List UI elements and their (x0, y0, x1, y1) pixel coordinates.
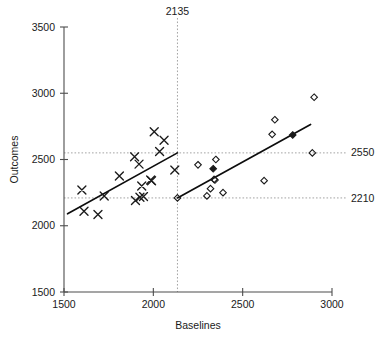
scatter-plot-figure: 15002000250030003500 1500200025003000 21… (0, 0, 385, 344)
data-point-cross (156, 148, 164, 156)
x-tick-label-1500: 1500 (52, 298, 76, 310)
reference-lines-group (64, 18, 346, 292)
axes-group (64, 27, 332, 292)
annotation-label-2135: 2135 (166, 5, 190, 17)
data-point-diamond (311, 94, 318, 101)
data-point-diamond (210, 165, 217, 172)
trend-lines-group (68, 124, 311, 213)
x-tick-label-2500: 2500 (231, 298, 255, 310)
x-tick-label-3000: 3000 (320, 298, 344, 310)
annotation-labels-group: 213525502210 (166, 5, 375, 204)
data-point-diamond (272, 116, 279, 123)
x-axis-ticks: 1500200025003000 (52, 288, 344, 310)
data-point-diamond (269, 131, 276, 138)
data-point-cross (94, 210, 102, 218)
data-point-diamond (220, 189, 227, 196)
y-axis-title: Outcomes (8, 136, 20, 184)
y-axis-ticks: 15002000250030003500 (32, 21, 68, 298)
data-point-diamond (195, 162, 202, 169)
data-point-cross (80, 207, 88, 215)
annotation-label-2210: 2210 (351, 192, 375, 204)
x-axis-title: Baselines (175, 319, 221, 331)
y-tick-label-2000: 2000 (32, 219, 56, 231)
x-tick-label-2000: 2000 (142, 298, 166, 310)
y-tick-label-3000: 3000 (32, 87, 56, 99)
annotation-label-2550: 2550 (351, 146, 375, 158)
data-point-cross (78, 186, 86, 194)
data-point-cross (160, 136, 168, 144)
trend-line-1 (68, 153, 178, 214)
data-point-cross (150, 128, 158, 136)
data-point-cross (115, 172, 123, 180)
plot-svg: 15002000250030003500 1500200025003000 21… (0, 0, 385, 344)
y-tick-label-1500: 1500 (32, 286, 56, 298)
data-point-cross (138, 182, 146, 190)
series-group-a (78, 128, 179, 219)
data-point-cross (148, 177, 156, 185)
data-point-diamond (213, 156, 220, 163)
y-tick-label-2500: 2500 (32, 153, 56, 165)
data-point-diamond (261, 177, 268, 184)
series-group-b (174, 94, 317, 201)
data-point-diamond (207, 185, 214, 192)
y-tick-label-3500: 3500 (32, 21, 56, 33)
